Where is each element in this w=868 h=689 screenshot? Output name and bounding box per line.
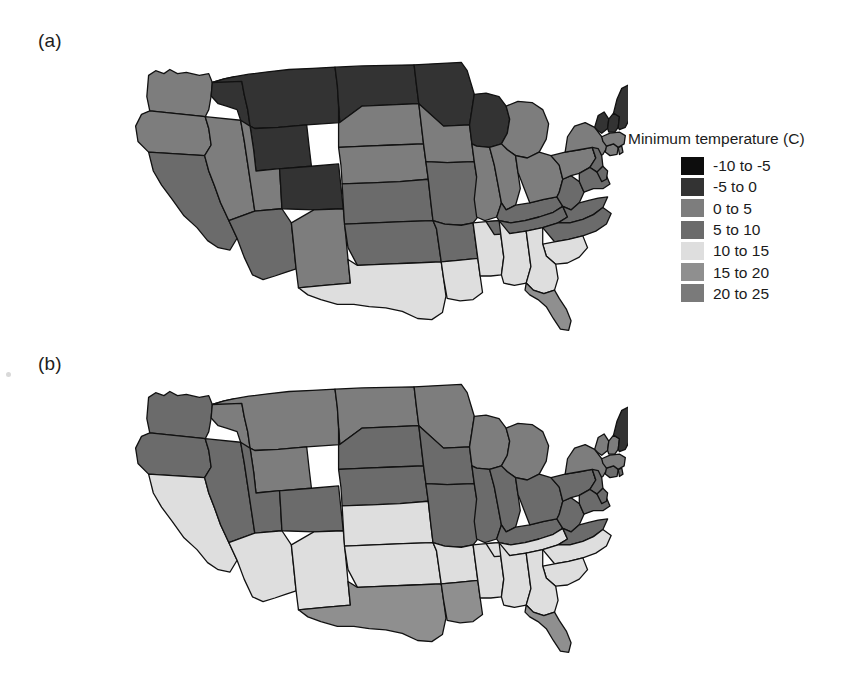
state-vt: [595, 112, 609, 133]
us-choropleth-a: [58, 40, 628, 335]
state-ne: [339, 466, 429, 506]
panel-b: (b) Maximum temperature (C) 0 to 55 to 1…: [0, 320, 868, 689]
legend-swatch: [681, 284, 704, 302]
legend-label: 5 to 10: [713, 221, 760, 238]
legend-swatch: [681, 221, 704, 239]
state-ks: [342, 179, 433, 224]
legend-row: 0 to 5: [681, 198, 866, 219]
legend-row: 15 to 20: [681, 261, 866, 282]
map-b-maximum-temperature: [58, 362, 628, 657]
state-or: [136, 111, 212, 156]
state-nm: [291, 209, 350, 288]
state-ar: [433, 543, 478, 584]
legend-row: 20 to 25: [681, 283, 866, 304]
state-ok: [344, 221, 441, 266]
legend-row: 10 to 15: [681, 240, 866, 261]
legend-row: -5 to 0: [681, 176, 866, 197]
legend-label: -10 to -5: [713, 157, 771, 174]
legend-label: 20 to 25: [713, 285, 769, 302]
state-az: [229, 209, 296, 280]
panel-a: (a) Minimum temperature (C) -10 to -5-5 …: [0, 0, 868, 345]
legend-swatch: [681, 199, 704, 217]
legend-swatch: [681, 242, 704, 260]
state-mi: [501, 101, 548, 158]
legend-swatch: [681, 178, 704, 196]
state-co: [280, 486, 344, 532]
legend-row: -10 to -5: [681, 155, 866, 176]
us-choropleth-b: [58, 362, 628, 657]
legend-label: 0 to 5: [713, 200, 752, 217]
state-wa: [147, 70, 212, 117]
state-la: [441, 580, 482, 622]
legend-label: 10 to 15: [713, 242, 769, 259]
state-ks: [342, 501, 433, 546]
temperature-map-figure: (a) Minimum temperature (C) -10 to -5-5 …: [0, 0, 868, 689]
legend-row: 5 to 10: [681, 219, 866, 240]
legend-a-title: Minimum temperature (C): [626, 130, 866, 148]
state-la: [441, 258, 482, 300]
state-wa: [147, 392, 212, 439]
state-nm: [291, 531, 350, 610]
state-ok: [344, 543, 441, 588]
legend-swatch: [681, 157, 704, 175]
legend-swatch: [681, 263, 704, 281]
state-mo: [426, 162, 483, 226]
state-vt: [595, 434, 609, 455]
map-a-minimum-temperature: [58, 40, 628, 335]
state-or: [136, 433, 212, 478]
legend-label: -5 to 0: [713, 178, 757, 195]
state-az: [229, 531, 296, 602]
state-mo: [426, 484, 483, 548]
legend-a: Minimum temperature (C) -10 to -5-5 to 0…: [626, 130, 866, 304]
legend-label: 15 to 20: [713, 264, 769, 281]
state-wy: [250, 447, 311, 493]
state-mi: [501, 423, 548, 480]
state-ar: [433, 221, 478, 262]
state-ne: [339, 144, 429, 184]
legend-a-items: -10 to -5-5 to 00 to 55 to 1010 to 1515 …: [626, 155, 866, 304]
state-co: [280, 164, 344, 210]
state-wy: [250, 125, 311, 171]
